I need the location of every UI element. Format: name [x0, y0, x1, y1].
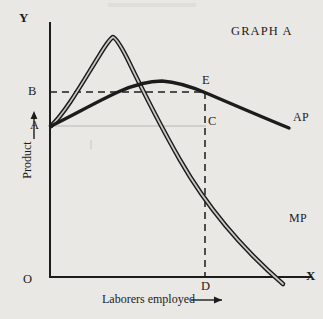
reference-lines [50, 92, 206, 277]
graph-title: GRAPH A [231, 25, 293, 38]
mp-curve-group [51, 37, 283, 284]
graph-figure: GRAPH A Y X O A B C D E AP MP Laborers e… [0, 0, 323, 319]
x-axis-label: X [306, 269, 315, 282]
origin-label: O [23, 273, 32, 286]
point-label-d: D [201, 280, 210, 293]
axis-lines [50, 22, 312, 278]
x-caption-arrow-group [191, 297, 222, 304]
y-axis-caption-wrap: Product [17, 117, 37, 203]
y-axis-caption: Product [20, 141, 34, 178]
ap-curve-label: AP [293, 111, 309, 123]
point-label-b: B [28, 85, 36, 98]
point-label-e: E [202, 74, 210, 87]
x-caption-arrow-head [214, 297, 222, 304]
ap-curve [51, 81, 289, 128]
y-axis-label: Y [19, 11, 28, 24]
mp-curve-outline [51, 37, 283, 284]
graph-canvas [0, 0, 323, 319]
mp-curve-label: MP [289, 212, 307, 224]
x-axis-caption: Laborers employed [102, 293, 195, 305]
point-label-c: C [208, 115, 216, 128]
